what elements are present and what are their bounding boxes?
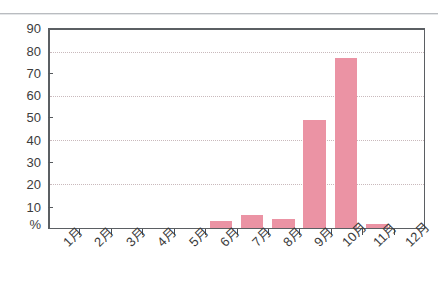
bar-10 [335,58,358,228]
bar-slot-10 [330,29,361,228]
bar-9 [303,120,326,228]
y-tick-label-70: 70 [27,67,41,80]
y-tick-label-30: 30 [27,156,41,169]
bar-slot-5 [174,29,205,228]
bar-slot-1 [49,29,80,228]
bar-slot-6 [205,29,236,228]
y-tick-label-50: 50 [27,111,41,124]
y-tick-label-80: 80 [27,45,41,58]
y-tick-label-10: 10 [27,201,41,214]
bar-slot-8 [268,29,299,228]
bar-slot-2 [80,29,111,228]
bar-slot-3 [112,29,143,228]
y-axis-labels: 90 80 70 60 50 40 30 20 10 % [0,0,44,284]
bar-slot-9 [299,29,330,228]
y-tick-label-60: 60 [27,89,41,102]
bar-series-group [49,29,424,228]
x-axis-labels: 1月 2月 3月 4月 5月 6月 7月 8月 9月 10月 11月 12月 [48,233,425,277]
y-axis-unit-label: % [29,218,41,231]
bar-chart-figure: 90 80 70 60 50 40 30 20 10 % 1月 2月 [0,0,440,284]
y-tick-label-90: 90 [27,22,41,35]
bar-slot-12 [393,29,424,228]
bar-slot-11 [362,29,393,228]
bar-slot-7 [237,29,268,228]
y-tick-label-20: 20 [27,178,41,191]
header-divider [0,13,438,14]
bar-slot-4 [143,29,174,228]
y-tick-label-40: 40 [27,134,41,147]
